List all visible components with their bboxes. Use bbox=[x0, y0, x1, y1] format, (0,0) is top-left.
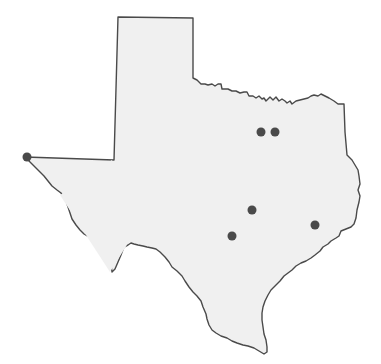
location-marker[interactable] bbox=[257, 128, 266, 137]
map-canvas bbox=[0, 0, 381, 364]
location-marker[interactable] bbox=[248, 206, 257, 215]
location-marker[interactable] bbox=[23, 153, 32, 162]
location-marker[interactable] bbox=[271, 128, 280, 137]
location-marker[interactable] bbox=[311, 221, 320, 230]
location-marker[interactable] bbox=[228, 232, 237, 241]
texas-map bbox=[0, 0, 381, 364]
